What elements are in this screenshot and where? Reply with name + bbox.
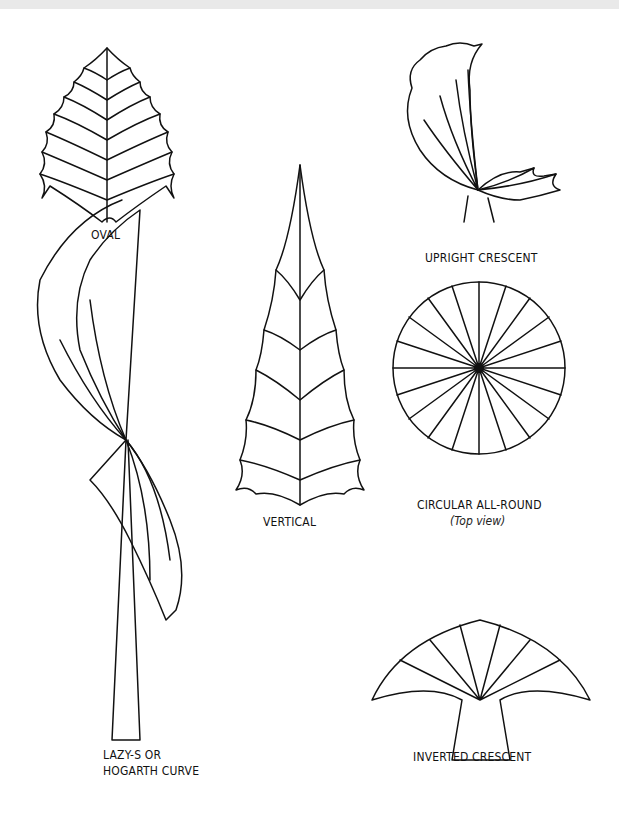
oval-shape <box>40 48 174 222</box>
label-circular: CIRCULAR ALL-ROUND <box>417 498 542 512</box>
label-lazy-s-line1: LAZY-S OR <box>103 748 161 762</box>
vertical-shape <box>236 165 364 505</box>
circular-shape <box>393 282 565 454</box>
label-upright-crescent: UPRIGHT CRESCENT <box>425 251 538 265</box>
inverted-crescent-shape <box>372 620 590 760</box>
label-lazy-s-line2: HOGARTH CURVE <box>103 764 199 778</box>
label-vertical: VERTICAL <box>263 515 316 529</box>
label-oval: OVAL <box>91 228 120 242</box>
lazy-s-shape <box>38 200 182 740</box>
upright-crescent-shape <box>408 43 561 222</box>
label-circular-subtitle: (Top view) <box>450 514 505 528</box>
label-inverted-crescent: INVERTED CRESCENT <box>413 750 531 764</box>
arrangement-shapes-illustration <box>0 0 619 817</box>
